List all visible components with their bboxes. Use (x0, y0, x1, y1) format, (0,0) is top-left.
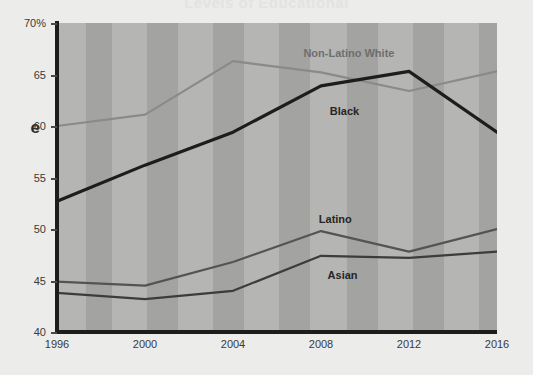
series-label: Non-Latino White (303, 47, 394, 59)
line-series (57, 71, 497, 201)
y-tick-mark (51, 332, 57, 334)
y-tick-mark (51, 75, 57, 77)
y-tick-mark (51, 126, 57, 128)
line-series (57, 252, 497, 299)
y-tick-mark (51, 178, 57, 180)
y-tick-label: 40 (34, 326, 46, 338)
y-tick-label: 65 (34, 69, 46, 81)
series-label: Latino (319, 213, 352, 225)
x-tick-label: 2016 (485, 338, 509, 350)
y-tick-label: 70% (24, 17, 46, 29)
y-tick-mark (51, 23, 57, 25)
x-axis-line (55, 330, 497, 334)
y-tick-label: 50 (34, 223, 46, 235)
chart-page: Levels of Educational e 70%656055504540 … (0, 0, 533, 375)
series-label: Asian (328, 269, 358, 281)
x-tick-label: 2008 (309, 338, 333, 350)
x-tick-label: 1996 (45, 338, 69, 350)
x-tick-label: 2012 (397, 338, 421, 350)
y-tick-mark (51, 281, 57, 283)
y-tick-label: 45 (34, 275, 46, 287)
y-tick-label: 60 (34, 120, 46, 132)
cut-off-title: Levels of Educational (0, 0, 533, 14)
x-tick-label: 2004 (221, 338, 245, 350)
series-lines (57, 23, 497, 332)
line-series (57, 61, 497, 126)
y-tick-label: 55 (34, 172, 46, 184)
y-tick-mark (51, 229, 57, 231)
series-label: Black (330, 105, 359, 117)
plot-area (57, 23, 497, 332)
x-tick-label: 2000 (133, 338, 157, 350)
